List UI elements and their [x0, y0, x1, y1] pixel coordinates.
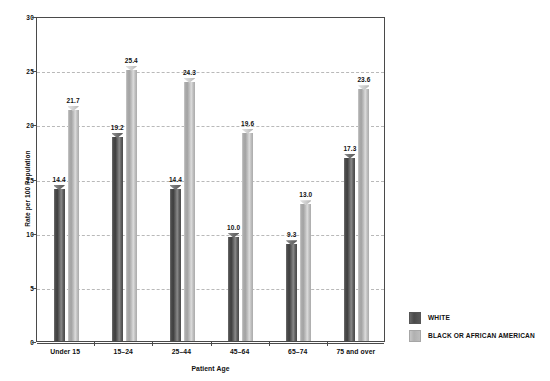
x-axis-tick-mark [152, 342, 153, 346]
bar-value-label: 19.6 [241, 120, 254, 127]
light-gray-swatch [409, 330, 421, 342]
bar-value-label: 25.4 [125, 57, 138, 64]
bar-value-label: 24.3 [183, 69, 196, 76]
bar [242, 129, 253, 341]
bar-body [126, 70, 137, 341]
bar-body [300, 204, 311, 341]
y-axis-title: Rate per 100 Population [24, 109, 31, 269]
bar [112, 133, 123, 341]
legend-item-label: BLACK OR AFRICAN AMERICAN [428, 332, 535, 339]
bar-value-label: 14.4 [169, 176, 182, 183]
bar-value-label: 9.3 [287, 231, 296, 238]
bar [358, 85, 369, 341]
x-axis-tick-label: 15–24 [114, 348, 133, 355]
bar-value-label: 19.2 [111, 124, 124, 131]
x-axis-tick-label: 75 and over [336, 348, 375, 355]
legend-item: WHITE [409, 310, 549, 325]
y-axis-tick-label: 20 [0, 122, 34, 129]
x-axis-title: Patient Age [36, 365, 385, 372]
y-axis-tick-label: 0 [0, 339, 34, 346]
bar-body [68, 110, 79, 341]
bar-series-layer: 14.421.719.225.414.424.310.019.69.313.01… [37, 18, 384, 341]
bar-value-label: 13.0 [299, 191, 312, 198]
top-edge-artifact [30, 1, 150, 7]
y-axis-tick-mark [32, 342, 36, 343]
bar-body [344, 158, 355, 341]
bar [286, 240, 297, 341]
bar [126, 66, 137, 341]
bar-body [54, 189, 65, 341]
bar-body [184, 82, 195, 341]
bar [344, 154, 355, 341]
x-axis-tick-label: Under 15 [50, 348, 80, 355]
bar [228, 233, 239, 341]
dark-gray-swatch [409, 312, 421, 324]
bar [170, 185, 181, 341]
y-axis-tick-label: 30 [0, 14, 34, 21]
y-axis-tick-label: 10 [0, 230, 34, 237]
y-axis-tick-label: 5 [0, 284, 34, 291]
x-axis-tick-mark [94, 342, 95, 346]
bar-body [112, 137, 123, 341]
chart-legend: WHITEBLACK OR AFRICAN AMERICAN [409, 310, 549, 346]
x-axis-tick-label: 65–74 [288, 348, 307, 355]
x-axis-tick-label: 45–64 [230, 348, 249, 355]
y-axis-tick-label: 25 [0, 68, 34, 75]
y-axis-tick-label: 15 [0, 176, 34, 183]
bar-value-label: 23.6 [357, 76, 370, 83]
x-axis-tick-mark [269, 342, 270, 346]
x-axis-tick-mark [211, 342, 212, 346]
x-axis-tick-mark [327, 342, 328, 346]
bar-body [286, 244, 297, 341]
bar-value-label: 14.4 [53, 176, 66, 183]
bar [184, 78, 195, 341]
legend-item: BLACK OR AFRICAN AMERICAN [409, 328, 549, 343]
legend-item-label: WHITE [428, 314, 450, 321]
plot-area: 14.421.719.225.414.424.310.019.69.313.01… [36, 17, 385, 342]
bar-body [228, 237, 239, 341]
bar-value-label: 10.0 [227, 224, 240, 231]
bar [300, 200, 311, 341]
x-axis-tick-label: 25–44 [172, 348, 191, 355]
bar-body [242, 133, 253, 341]
bar-value-label: 21.7 [67, 97, 80, 104]
bar-body [358, 89, 369, 341]
chart-figure: Rate per 100 Population 051015202530 14.… [0, 0, 550, 381]
bar-value-label: 17.3 [343, 145, 356, 152]
bar [68, 106, 79, 341]
bar-body [170, 189, 181, 341]
bar [54, 185, 65, 341]
